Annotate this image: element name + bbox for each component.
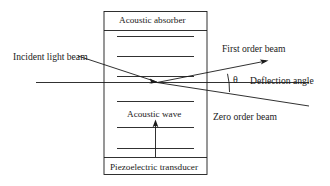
- incident-light-beam-label: Incident light beam: [13, 52, 88, 62]
- theta-symbol-label: θ: [233, 75, 238, 85]
- acousto-optic-diagram: Acoustic absorber Piezoelectric transduc…: [0, 0, 330, 186]
- first-order-beam-label: First order beam: [222, 44, 285, 54]
- acoustic-absorber-label: Acoustic absorber: [119, 16, 186, 25]
- zero-order-beam-label: Zero order beam: [213, 112, 277, 122]
- deflection-angle-label: Deflection angle: [250, 76, 314, 86]
- acoustic-wave-label: Acoustic wave: [127, 110, 181, 119]
- diagram-canvas: [0, 0, 330, 186]
- piezoelectric-transducer-label: Piezoelectric transducer: [110, 163, 198, 172]
